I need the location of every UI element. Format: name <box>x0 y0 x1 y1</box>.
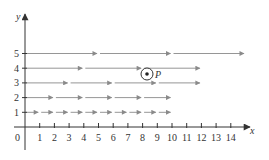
point-p: P <box>141 68 161 80</box>
plot-canvas: 123456789101112131412345 x y 0 P <box>0 0 269 160</box>
x-tick-label: 4 <box>81 132 86 143</box>
x-tick-label: 9 <box>155 132 160 143</box>
y-tick-label: 2 <box>14 92 19 103</box>
x-tick-label: 6 <box>111 132 116 143</box>
x-tick-label: 14 <box>226 132 236 143</box>
x-tick-label: 11 <box>182 132 192 143</box>
vector-field-diagram: 123456789101112131412345 x y 0 P <box>0 0 269 160</box>
x-tick-label: 3 <box>67 132 72 143</box>
y-tick-label: 4 <box>14 63 19 74</box>
origin-label: 0 <box>15 132 20 143</box>
x-tick-label: 10 <box>167 132 177 143</box>
axes <box>14 14 250 150</box>
x-tick-label: 5 <box>96 132 101 143</box>
y-axis-label: y <box>15 11 21 22</box>
point-p-label: P <box>154 69 161 80</box>
x-tick-label: 1 <box>37 132 42 143</box>
y-tick-label: 5 <box>14 48 19 59</box>
x-axis-label: x <box>249 125 255 136</box>
x-tick-label: 13 <box>211 132 221 143</box>
dot-icon <box>145 72 149 76</box>
y-tick-label: 1 <box>14 107 19 118</box>
y-tick-label: 3 <box>14 77 19 88</box>
x-tick-label: 12 <box>196 132 206 143</box>
x-tick-label: 8 <box>140 132 145 143</box>
x-tick-label: 2 <box>52 132 57 143</box>
axis-ticks: 123456789101112131412345 <box>14 48 236 143</box>
field-arrows <box>27 54 245 113</box>
x-tick-label: 7 <box>125 132 130 143</box>
